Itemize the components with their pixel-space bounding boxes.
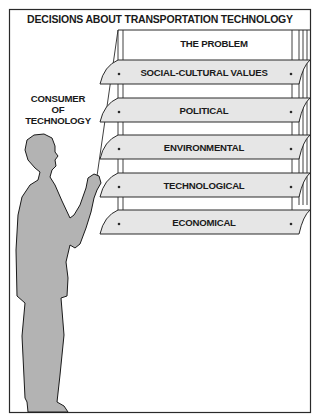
consumer-label-line-1: CONSUMER	[18, 93, 98, 104]
header-panel-label: THE PROBLEM	[118, 38, 310, 49]
diagram-graphic	[0, 0, 322, 420]
slat-political: POLITICAL	[108, 105, 300, 116]
diagram-title: DECISIONS ABOUT TRANSPORTATION TECHNOLOG…	[10, 13, 310, 25]
consumer-label: CONSUMER OF TECHNOLOGY	[18, 93, 98, 126]
slat-environmental: ENVIRONMENTAL	[108, 142, 300, 153]
consumer-silhouette	[16, 134, 101, 412]
slat-social-cultural-values: SOCIAL-CULTURAL VALUES	[108, 67, 300, 78]
consumer-label-line-3: TECHNOLOGY	[18, 115, 98, 126]
slat-technological: TECHNOLOGICAL	[108, 180, 300, 191]
consumer-label-line-2: OF	[18, 104, 98, 115]
slat-economical: ECONOMICAL	[108, 217, 300, 228]
diagram-canvas: DECISIONS ABOUT TRANSPORTATION TECHNOLOG…	[0, 0, 322, 420]
